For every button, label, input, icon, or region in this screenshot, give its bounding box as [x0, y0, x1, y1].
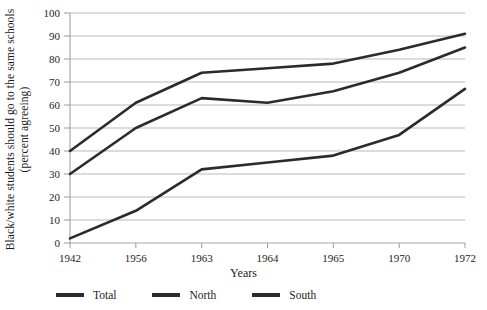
legend-item-total: Total [56, 289, 116, 301]
chart-legend: Total North South [56, 285, 356, 305]
y-tick-labels: 0102030405060708090100 [44, 7, 71, 249]
x-tick-label: 1942 [59, 252, 81, 264]
plot-area: 0102030405060708090100 19421956196319641… [0, 0, 487, 310]
x-tick-label: 1963 [191, 252, 214, 264]
series-line-total [70, 48, 465, 175]
x-tick-label: 1970 [388, 252, 411, 264]
y-tick-label: 30 [49, 168, 61, 180]
line-chart: Black/white students should go to the sa… [0, 0, 487, 310]
y-tick-label: 90 [49, 30, 61, 42]
x-tick-label: 1972 [454, 252, 476, 264]
y-tick-label: 10 [49, 214, 61, 226]
y-tick-label: 60 [49, 99, 61, 111]
legend-item-south: South [252, 289, 316, 301]
legend-swatch-total-icon [56, 293, 84, 296]
x-axis-title: Years [0, 266, 487, 281]
data-series [70, 34, 465, 239]
legend-swatch-south-icon [252, 293, 280, 296]
x-tick-labels: 1942195619631964196519701972 [59, 252, 476, 264]
y-tick-label: 80 [49, 53, 61, 65]
y-tick-label: 20 [49, 191, 61, 203]
y-tick-label: 0 [55, 237, 61, 249]
legend-label-south: South [289, 289, 316, 301]
legend-item-north: North [152, 289, 216, 301]
legend-swatch-north-icon [152, 293, 180, 296]
series-line-south [70, 89, 465, 239]
y-tick-label: 70 [49, 76, 61, 88]
y-tick-label: 100 [44, 7, 61, 19]
x-tick-label: 1956 [125, 252, 148, 264]
legend-label-total: Total [93, 289, 116, 301]
legend-label-north: North [189, 289, 216, 301]
y-tick-label: 40 [49, 145, 61, 157]
x-tick-marks [70, 243, 465, 248]
x-tick-label: 1964 [257, 252, 280, 264]
y-tick-label: 50 [49, 122, 61, 134]
x-tick-label: 1965 [322, 252, 345, 264]
